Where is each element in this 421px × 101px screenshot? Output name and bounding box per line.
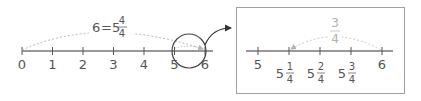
svg-text:6: 6: [92, 20, 100, 35]
tick-label-1: 1: [48, 57, 56, 72]
svg-text:5: 5: [307, 66, 315, 81]
zoom-box: 3 4 5 5 1 4 5 2 4 5 3 4: [237, 8, 405, 94]
svg-text:4: 4: [119, 28, 125, 39]
svg-text:=: =: [101, 20, 112, 35]
svg-text:5: 5: [338, 66, 346, 81]
number-line-diagram: 0 1 2 3 4 5 6 6 = 5 4 4: [0, 0, 421, 101]
svg-text:4: 4: [119, 15, 125, 26]
zoom-arrow-icon: [205, 28, 231, 45]
jump-label: 3 4: [330, 16, 340, 46]
tick-label-3: 3: [109, 57, 117, 72]
main-number-line: 0 1 2 3 4 5 6 6 = 5 4 4: [18, 14, 231, 72]
zoom-tick-5: 5: [254, 57, 262, 72]
svg-text:2: 2: [318, 61, 324, 72]
svg-text:3: 3: [349, 61, 355, 72]
tick-label-2: 2: [79, 57, 87, 72]
svg-text:4: 4: [318, 74, 324, 85]
svg-text:4: 4: [349, 74, 355, 85]
svg-text:3: 3: [331, 16, 339, 30]
svg-text:1: 1: [287, 61, 293, 72]
svg-text:4: 4: [331, 32, 339, 46]
svg-text:4: 4: [287, 74, 293, 85]
small-jump-arc: [175, 46, 203, 49]
tick-label-0: 0: [18, 57, 26, 72]
zoom-tick-6: 6: [378, 57, 386, 72]
tick-label-6: 6: [201, 57, 209, 72]
svg-text:5: 5: [276, 66, 284, 81]
tick-label-4: 4: [140, 57, 148, 72]
